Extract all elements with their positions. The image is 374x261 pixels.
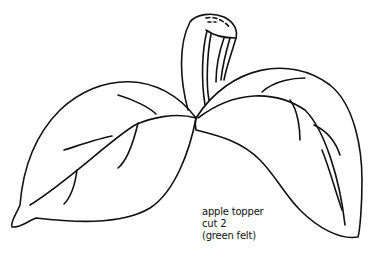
stem-shape — [182, 14, 237, 110]
caption-title: apple topper — [202, 206, 264, 218]
caption-material: (green felt) — [202, 230, 264, 242]
pattern-caption: apple topper cut 2 (green felt) — [202, 206, 264, 242]
caption-quantity: cut 2 — [202, 218, 264, 230]
left-leaf-shape — [12, 82, 196, 227]
